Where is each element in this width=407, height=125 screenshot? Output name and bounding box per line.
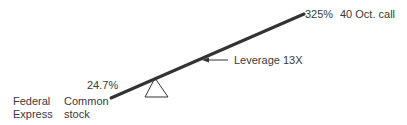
company-label-line1: Federal [13, 95, 50, 108]
instrument-label-line1: Common [64, 95, 109, 108]
instrument-label-line2: stock [64, 108, 90, 121]
call-return-label: 325% [305, 8, 333, 21]
call-instrument-label: 40 Oct. call [340, 8, 395, 21]
company-label-line2: Express [13, 108, 53, 121]
stock-return-label: 24.7% [87, 79, 118, 92]
leverage-annotation: Leverage 13X [234, 54, 303, 67]
